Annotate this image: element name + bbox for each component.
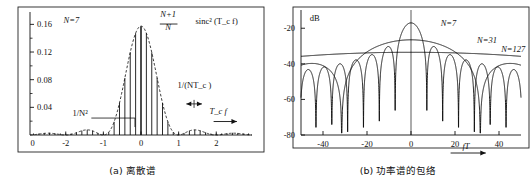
x-tick-label: -1 <box>100 138 107 148</box>
floor-level-label: 1/N² <box>72 108 88 118</box>
y-tick-label: 0.16 <box>37 19 52 29</box>
y-tick-label: -60 <box>284 94 295 104</box>
arrow-head-x-label <box>231 119 237 124</box>
x-tick-label: -2 <box>62 138 69 148</box>
y-tick-label: -20 <box>284 23 295 33</box>
x-tick-label: 0 <box>409 139 413 149</box>
power-spectrum-envelope-chart: -20-40-60-80-40-2002040N=7N=31N=127dBfT <box>265 0 531 160</box>
figure-container: 0.040.080.120.16-2-10120N=7N+1Nsinc² (T_… <box>0 0 531 193</box>
x-tick-label: 40 <box>495 139 504 149</box>
n-value: N=7 <box>63 15 80 25</box>
y-tick-label: 0.08 <box>37 75 52 85</box>
x-tick-label-origin: 0 <box>31 138 35 148</box>
x-tick-label: -20 <box>361 139 372 149</box>
arrow-head-x-label <box>480 151 486 156</box>
x-tick-label: 0 <box>139 138 143 148</box>
y-tick-label: -40 <box>284 59 295 69</box>
y-tick-label: 0.04 <box>37 102 53 112</box>
panel-discrete-spectrum: 0.040.080.120.16-2-10120N=7N+1Nsinc² (T_… <box>0 0 265 193</box>
series-label-N7: N=7 <box>440 18 457 28</box>
x-axis-label: T_c f <box>210 106 229 116</box>
arrow-head-right <box>197 101 202 106</box>
envelope-formula-sinc: sinc² (T_c f) <box>196 16 238 26</box>
y-tick-label: 0.12 <box>37 47 52 57</box>
envelope-formula-denominator: N <box>164 22 172 32</box>
x-tick-label: 1 <box>177 138 181 148</box>
caption-panel-a: (a) 离散谱 <box>0 163 265 177</box>
series-label-N31: N=31 <box>476 35 497 45</box>
envelope-formula-numerator: N+1 <box>159 9 176 19</box>
db-unit-label: dB <box>310 13 320 23</box>
line-spacing-label: 1/(NT_c ) <box>178 80 212 90</box>
caption-panel-b: (b) 功率谱的包络 <box>265 163 531 177</box>
x-axis-label: fT <box>462 141 470 151</box>
y-tick-label: -80 <box>284 130 295 140</box>
arrow-head-left <box>186 101 191 106</box>
x-tick-label: 2 <box>214 138 218 148</box>
x-tick-label: -40 <box>317 139 328 149</box>
discrete-spectrum-chart: 0.040.080.120.16-2-10120N=7N+1Nsinc² (T_… <box>0 0 265 160</box>
panel-power-spectrum-envelope: -20-40-60-80-40-2002040N=7N=31N=127dBfT … <box>265 0 531 193</box>
series-label-N127: N=127 <box>500 44 526 54</box>
x-tick-label: 20 <box>451 139 460 149</box>
